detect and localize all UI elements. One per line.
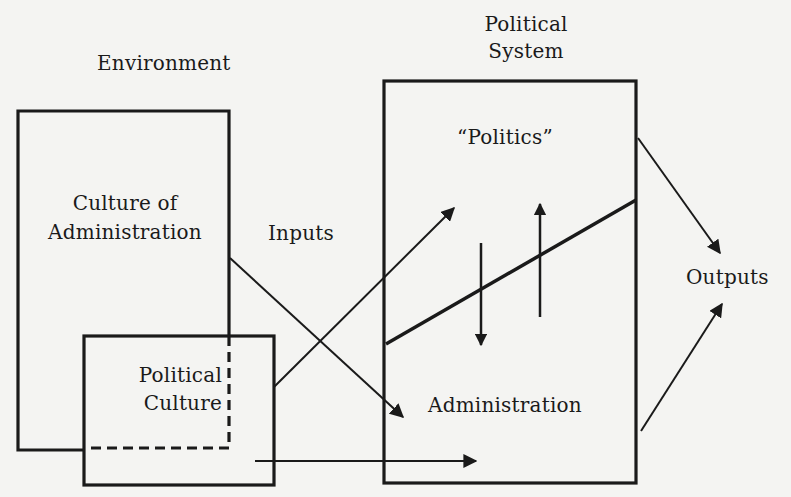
political-system-label: Political System	[460, 11, 592, 64]
political-system-label-line2: System	[460, 38, 592, 64]
culture-of-administration-line1: Culture of	[30, 190, 220, 216]
culture-of-administration-label: Culture of Administration	[30, 190, 220, 245]
administration-label: Administration	[428, 392, 582, 418]
culture-of-administration-line2: Administration	[30, 219, 220, 245]
political-system-diagram: Environment Political System “Politics” …	[0, 0, 791, 497]
outputs-label: Outputs	[686, 264, 769, 290]
political-culture-line2: Culture	[100, 390, 222, 416]
politics-label: “Politics”	[457, 124, 553, 150]
output-arrow-from-administration	[641, 304, 722, 431]
inputs-label: Inputs	[268, 220, 334, 246]
politics-administration-divider	[386, 200, 636, 344]
environment-label: Environment	[97, 50, 231, 76]
political-culture-label: Political Culture	[100, 362, 222, 416]
political-culture-line1: Political	[100, 362, 222, 388]
political-system-label-line1: Political	[460, 11, 592, 37]
output-arrow-from-politics	[638, 138, 720, 253]
